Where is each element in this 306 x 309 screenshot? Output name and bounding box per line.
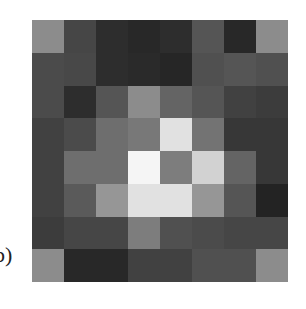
heatmap-cell [64,249,96,282]
heatmap-cell [192,184,224,217]
heatmap-cell [160,118,192,151]
grayscale-pixel-grid [32,20,288,282]
heatmap-cell [256,86,288,119]
heatmap-cell [64,86,96,119]
heatmap-cell [32,20,64,53]
heatmap-cell [96,184,128,217]
heatmap-cell [64,151,96,184]
heatmap-cell [160,20,192,53]
heatmap-cell [256,249,288,282]
heatmap-cell [64,184,96,217]
heatmap-cell [160,86,192,119]
heatmap-cell [96,20,128,53]
heatmap-cell [64,118,96,151]
heatmap-cell [224,217,256,250]
heatmap-cell [64,217,96,250]
heatmap-cell [256,20,288,53]
heatmap-cell [96,151,128,184]
heatmap-cell [160,249,192,282]
heatmap-cell [160,151,192,184]
heatmap-cell [256,151,288,184]
heatmap-cell [128,118,160,151]
heatmap-cell [32,53,64,86]
heatmap-cell [64,53,96,86]
heatmap-cell [96,53,128,86]
heatmap-cell [96,217,128,250]
heatmap-cell [128,151,160,184]
heatmap-cell [256,217,288,250]
heatmap-cell [96,249,128,282]
heatmap-cell [224,151,256,184]
heatmap-cell [192,151,224,184]
heatmap-cell [224,20,256,53]
heatmap-cell [256,184,288,217]
heatmap-cell [32,184,64,217]
heatmap-cell [32,217,64,250]
heatmap-cell [96,86,128,119]
heatmap-cell [160,184,192,217]
panel-label: b) [0,244,12,266]
heatmap-cell [192,217,224,250]
heatmap-cell [32,151,64,184]
heatmap-cell [128,53,160,86]
heatmap-cell [224,249,256,282]
heatmap-cell [32,118,64,151]
heatmap-cell [192,249,224,282]
heatmap-cell [128,249,160,282]
heatmap-cell [128,20,160,53]
heatmap-cell [32,86,64,119]
heatmap-cell [192,86,224,119]
heatmap-cell [224,184,256,217]
heatmap-cell [192,53,224,86]
heatmap-cell [64,20,96,53]
heatmap-cell [224,86,256,119]
heatmap-cell [192,118,224,151]
heatmap-cell [128,184,160,217]
heatmap-cell [160,217,192,250]
heatmap-cell [256,53,288,86]
heatmap-cell [32,249,64,282]
heatmap-cell [224,118,256,151]
heatmap-cell [128,86,160,119]
heatmap-cell [160,53,192,86]
heatmap-cell [96,118,128,151]
heatmap-cell [192,20,224,53]
heatmap-cell [128,217,160,250]
heatmap-cell [224,53,256,86]
heatmap-cell [256,118,288,151]
